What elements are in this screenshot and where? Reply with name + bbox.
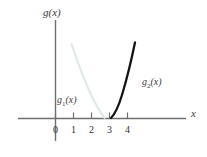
curve-g2 (111, 43, 135, 119)
function-graph-figure: g(x) x g1(x) g2(x) 0 1 2 3 4 (0, 0, 207, 157)
curve-label-g2: g2(x) (142, 76, 162, 90)
x-tick-label-3: 3 (107, 124, 112, 135)
x-tick-label-0: 0 (53, 124, 58, 135)
y-axis-label: g(x) (43, 6, 61, 19)
x-axis-label: x (190, 107, 196, 119)
x-tick-label-4: 4 (125, 124, 130, 135)
plot-area: g(x) x g1(x) g2(x) 0 1 2 3 4 (0, 0, 207, 157)
curve-label-g1: g1(x) (57, 94, 77, 108)
curve-g1 (72, 44, 105, 118)
x-tick-label-2: 2 (89, 124, 94, 135)
curve-label-g2-suffix: (x) (151, 76, 163, 88)
curve-label-g1-suffix: (x) (66, 94, 78, 106)
x-tick-label-1: 1 (71, 124, 76, 135)
